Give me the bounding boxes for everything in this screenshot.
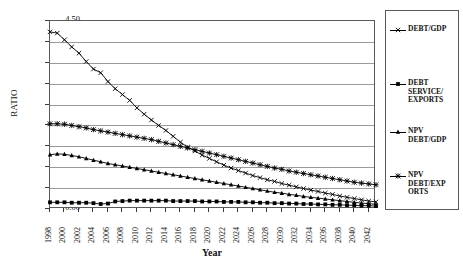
data-point-star <box>308 172 313 177</box>
data-point-star <box>62 121 67 126</box>
data-point-square <box>316 203 320 207</box>
legend-entry-2[interactable]: NPV DEBT/GDP <box>390 127 458 144</box>
legend: DEBT/GDPDEBT SERVICE/ EXPORTSNPV DEBT/GD… <box>385 10 459 210</box>
x-tick-label: 2038 <box>334 232 343 243</box>
data-point-square <box>280 201 284 205</box>
data-point-star <box>127 133 132 138</box>
data-point-square <box>55 200 59 204</box>
data-point-star <box>141 136 146 141</box>
x-tick-label: 2014 <box>160 232 169 243</box>
x-tick-mark <box>194 208 195 212</box>
data-point-cross <box>106 79 110 83</box>
data-point-star <box>279 167 284 172</box>
data-point-star <box>250 160 255 165</box>
data-point-triangle <box>396 130 400 134</box>
data-point-star <box>228 155 233 160</box>
data-point-star <box>366 181 371 186</box>
data-point-square <box>150 199 154 203</box>
x-tick-mark <box>339 208 340 212</box>
x-tick-label: 2026 <box>247 232 256 243</box>
data-point-star <box>113 131 118 136</box>
x-tick-mark <box>78 208 79 212</box>
data-point-star <box>207 150 212 155</box>
data-point-square <box>287 202 291 206</box>
data-point-square <box>229 200 233 204</box>
data-point-star <box>294 170 299 175</box>
data-point-star <box>91 127 96 132</box>
legend-marker-square-icon <box>390 80 406 89</box>
series-3 <box>47 121 378 187</box>
legend-label: DEBT SERVICE/ EXPORTS <box>406 79 458 105</box>
x-tick-label: 2020 <box>203 232 212 243</box>
data-point-square <box>244 200 248 204</box>
x-tick-label: 2012 <box>145 232 154 243</box>
data-point-cross <box>142 112 146 116</box>
data-point-cross <box>135 106 139 110</box>
x-tick-label: 2032 <box>290 232 299 243</box>
x-tick-label: 2042 <box>363 232 372 243</box>
data-point-star <box>272 165 277 170</box>
data-point-star <box>323 175 328 180</box>
data-point-square <box>251 200 255 204</box>
data-point-cross <box>214 160 218 164</box>
x-tick-mark <box>92 208 93 212</box>
x-axis-title: Year <box>49 247 375 258</box>
data-point-star <box>170 142 175 147</box>
data-point-cross <box>70 45 74 49</box>
x-tick-label: 2010 <box>131 232 140 243</box>
ratio-line-chart: RATIO 0.000.501.001.502.002.503.003.504.… <box>0 0 463 270</box>
data-point-star <box>359 180 364 185</box>
data-point-square <box>302 202 306 206</box>
data-point-star <box>105 129 110 134</box>
x-tick-label: 2022 <box>218 232 227 243</box>
data-point-square <box>157 199 161 203</box>
data-point-square <box>222 200 226 204</box>
x-tick-mark <box>107 208 108 212</box>
plot-area <box>49 20 375 208</box>
x-tick-label: 2036 <box>319 232 328 243</box>
data-point-star <box>286 168 291 173</box>
x-tick-label: 2004 <box>87 232 96 243</box>
legend-entry-1[interactable]: DEBT SERVICE/ EXPORTS <box>390 79 458 105</box>
data-point-star <box>199 149 204 154</box>
data-point-cross <box>207 156 211 160</box>
legend-label: NPV DEBT/EXP ORTS <box>406 171 458 197</box>
legend-entry-0[interactable]: DEBT/GDP <box>390 25 458 35</box>
data-point-cross <box>164 128 168 132</box>
data-point-star <box>236 157 241 162</box>
data-point-star <box>330 176 335 181</box>
data-point-star <box>395 173 400 178</box>
x-tick-mark <box>266 208 267 212</box>
legend-marker-triangle-icon <box>390 128 406 137</box>
data-point-star <box>373 182 378 187</box>
data-point-square <box>179 199 183 203</box>
data-point-square <box>128 199 132 203</box>
data-point-square <box>84 201 88 205</box>
x-tick-label: 2024 <box>232 232 241 243</box>
data-point-star <box>265 164 270 169</box>
x-tick-mark <box>368 208 369 212</box>
data-point-cross <box>243 171 247 175</box>
x-tick-label: 2000 <box>58 232 67 243</box>
x-tick-mark <box>310 208 311 212</box>
data-point-cross <box>396 28 400 32</box>
data-point-star <box>134 134 139 139</box>
data-point-square <box>135 199 139 203</box>
x-tick-mark <box>165 208 166 212</box>
x-tick-mark <box>63 208 64 212</box>
data-point-star <box>84 125 89 130</box>
data-point-square <box>331 203 335 207</box>
data-point-cross <box>91 67 95 71</box>
data-point-cross <box>113 86 117 90</box>
x-tick-label: 2016 <box>174 232 183 243</box>
x-tick-label: 2006 <box>102 232 111 243</box>
legend-entry-3[interactable]: NPV DEBT/EXP ORTS <box>390 171 458 197</box>
data-point-square <box>142 199 146 203</box>
legend-label: DEBT/GDP <box>406 25 446 34</box>
data-point-star <box>301 171 306 176</box>
data-point-square <box>63 200 67 204</box>
data-point-square <box>258 201 262 205</box>
data-point-star <box>192 147 197 152</box>
data-point-star <box>178 144 183 149</box>
data-point-star <box>149 137 154 142</box>
